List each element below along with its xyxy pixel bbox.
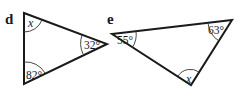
- angle-e-bottom: x: [185, 72, 192, 86]
- angle-arc-d-right: [81, 35, 83, 54]
- angle-d-top: x: [27, 16, 34, 30]
- angle-d-bottom: 82°: [26, 69, 43, 81]
- triangle-e: e 55° 63° x: [107, 11, 232, 86]
- triangle-d-label: d: [5, 11, 14, 27]
- triangle-d: d x 32° 82°: [5, 11, 107, 84]
- angle-e-left: 55°: [117, 34, 134, 46]
- triangles-diagram: d x 32° 82° e 55° 63° x: [0, 0, 243, 104]
- angle-e-topright: 63°: [208, 24, 225, 36]
- angle-d-right: 32°: [84, 39, 101, 51]
- triangle-e-label: e: [107, 11, 114, 27]
